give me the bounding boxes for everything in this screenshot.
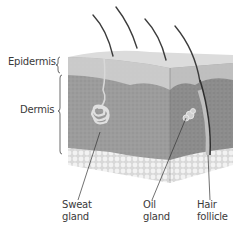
label-hair-follicle: Hair follicle	[197, 199, 228, 223]
skin-diagram: Epidermis Dermis Sweat gland Oil gland H…	[0, 0, 238, 229]
label-oil-gland: Oil gland	[143, 199, 170, 223]
label-epidermis: Epidermis	[8, 56, 56, 68]
label-dermis: Dermis	[20, 104, 54, 116]
label-sweat-gland: Sweat gland	[62, 199, 92, 223]
dermis-brace	[58, 75, 62, 154]
epidermis-brace	[56, 57, 60, 73]
